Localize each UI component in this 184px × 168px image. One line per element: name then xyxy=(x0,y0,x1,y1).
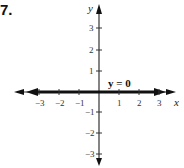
y-tick-label: −3 xyxy=(85,149,95,159)
line-right-arrow-icon xyxy=(154,88,166,96)
coordinate-plane: −3 −2 −1 1 2 3 3 2 1 −1 −2 −3 y x y = 0 xyxy=(0,0,184,168)
x-tick-label: −2 xyxy=(55,98,65,108)
x-axis-left-arrow-icon xyxy=(14,89,24,95)
y-tick-label: 3 xyxy=(89,23,94,33)
y-axis-down-arrow-icon xyxy=(96,158,102,166)
y-axis-up-arrow-icon xyxy=(96,4,102,14)
y-tick-label: −2 xyxy=(85,128,95,138)
x-tick-label: −3 xyxy=(35,98,45,108)
equation-label: y = 0 xyxy=(108,77,131,89)
x-tick-label: −1 xyxy=(75,98,85,108)
y-axis-label: y xyxy=(87,2,93,14)
y-tick-label: −1 xyxy=(85,107,95,117)
y-tick-label: 2 xyxy=(89,45,94,55)
x-tick-label: 3 xyxy=(157,98,162,108)
x-axis-right-arrow-icon xyxy=(166,89,176,95)
x-tick-label: 1 xyxy=(117,98,122,108)
x-axis-label: x xyxy=(173,96,179,108)
line-left-arrow-icon xyxy=(26,88,38,96)
y-tick-label: 1 xyxy=(89,66,94,76)
x-tick-label: 2 xyxy=(137,98,142,108)
